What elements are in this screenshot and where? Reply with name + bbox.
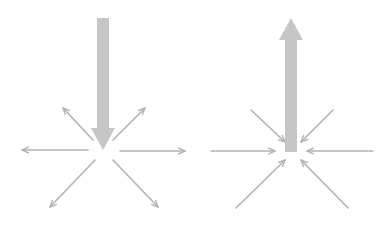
small-arrow-up-right-icon [236, 160, 285, 208]
diagram-canvas [0, 0, 387, 226]
small-arrow-down-right-icon [113, 160, 158, 207]
big-arrow-up-icon [279, 18, 303, 152]
small-arrow-up-left-icon [301, 160, 348, 208]
small-arrow-down-left-icon [301, 110, 333, 142]
arrows-diagram [0, 0, 387, 226]
small-arrow-right-icon [120, 148, 185, 154]
big-arrow-down-icon [91, 18, 115, 150]
small-arrow-up-right-icon [113, 108, 145, 140]
small-arrow-left-icon [307, 148, 373, 154]
right-convergent-diagram [211, 18, 373, 208]
small-arrow-down-right-icon [251, 110, 285, 142]
small-arrow-down-left-icon [50, 160, 95, 207]
left-divergent-diagram [22, 18, 185, 207]
small-arrow-up-left-icon [63, 108, 93, 140]
small-arrow-right-icon [211, 148, 275, 154]
small-arrow-left-icon [22, 147, 88, 153]
